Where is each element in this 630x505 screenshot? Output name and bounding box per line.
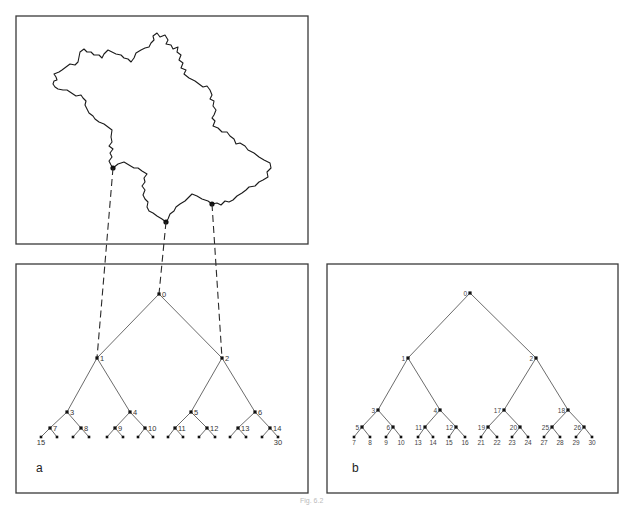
tree-node-label: 22: [493, 439, 501, 446]
panel-a-letter: a: [36, 461, 43, 475]
tree-node-label: 10: [397, 439, 405, 446]
tree-node-label: 10: [148, 424, 156, 433]
tree-node-label: 20: [510, 424, 518, 431]
tree-node: [79, 426, 82, 429]
tree-node: [152, 436, 155, 439]
tree-node-label: 30: [274, 438, 282, 447]
tree-node: [417, 436, 420, 439]
tree-node: [486, 425, 489, 428]
tree-node-label: 7: [53, 424, 57, 433]
tree-node-label: 7: [352, 439, 356, 446]
tree-node-label: 12: [446, 424, 454, 431]
fractal-panel-frame: [16, 16, 308, 244]
tree-node-label: 13: [414, 439, 422, 446]
tree-node-label: 25: [542, 424, 550, 431]
tree-node-label: 3: [70, 408, 74, 417]
tree-edge: [408, 358, 440, 410]
panel-b-letter: b: [352, 461, 359, 475]
tree-edge: [504, 358, 536, 410]
tree-node: [566, 408, 569, 411]
tree-node-label: 13: [241, 424, 249, 433]
tree-node-label: 11: [415, 424, 422, 431]
tree-node: [543, 436, 546, 439]
tree-node: [376, 408, 379, 411]
tree-node: [575, 436, 578, 439]
tree-node-label: 23: [508, 439, 516, 446]
tree-node: [205, 426, 208, 429]
tree-node-label: 14: [429, 439, 437, 446]
tree-node: [236, 426, 239, 429]
tree-node: [189, 410, 192, 413]
tree-edge: [536, 358, 568, 410]
tree-edge: [191, 358, 222, 412]
tree-node: [391, 425, 394, 428]
tree-panel-b: 0123417185611121920252678910131415162122…: [352, 290, 596, 447]
tree-node: [122, 436, 125, 439]
tree-node: [550, 425, 553, 428]
tree-node: [245, 436, 248, 439]
panel-b-frame: [327, 264, 618, 493]
tree-edge: [408, 293, 470, 358]
tree-node-label: 6: [258, 408, 262, 417]
tree-node: [48, 426, 51, 429]
tree-node-label: 15: [445, 439, 453, 446]
tree-edge: [222, 358, 255, 412]
tree-node: [167, 436, 170, 439]
tree-node-label: 30: [588, 439, 596, 446]
tree-node-label: 15: [37, 438, 45, 447]
tree-node-label: 28: [556, 439, 564, 446]
tree-node: [369, 436, 372, 439]
fractal-island-outline: [53, 33, 271, 222]
tree-node-label: 12: [210, 424, 218, 433]
figure-canvas: 012345678910111213141530 012341718561112…: [0, 0, 630, 505]
tree-node: [106, 436, 109, 439]
tree-node: [400, 436, 403, 439]
tree-node-label: 11: [178, 424, 186, 433]
tree-node-label: 2: [225, 354, 229, 363]
tree-node-label: 8: [368, 439, 372, 446]
tree-node-label: 2: [529, 355, 533, 362]
tree-node: [268, 426, 271, 429]
tree-node-label: 14: [273, 424, 281, 433]
tree-node: [128, 410, 131, 413]
tree-node: [591, 436, 594, 439]
tree-edge: [470, 293, 536, 358]
tree-node: [559, 436, 562, 439]
tree-node-label: 9: [384, 439, 388, 446]
dashed-correspondence-links: [97, 168, 222, 358]
tree-node: [518, 425, 521, 428]
tree-node: [173, 426, 176, 429]
dashed-link: [97, 168, 113, 358]
tree-node-label: 5: [355, 424, 359, 431]
tree-node-label: 27: [540, 439, 548, 446]
tree-node-label: 16: [461, 439, 469, 446]
tree-node: [72, 436, 75, 439]
tree-node-label: 19: [478, 424, 486, 431]
dashed-link: [159, 222, 166, 294]
tree-edge: [67, 358, 97, 412]
tree-node: [56, 436, 59, 439]
tree-node-label: 1: [401, 355, 405, 362]
tree-node: [229, 436, 232, 439]
dashed-link: [212, 204, 222, 358]
tree-node: [496, 436, 499, 439]
tree-node-label: 21: [477, 439, 485, 446]
tree-node-label: 0: [463, 290, 467, 297]
tree-node: [511, 436, 514, 439]
tree-node: [360, 425, 363, 428]
tree-node: [502, 408, 505, 411]
tree-node-label: 4: [133, 408, 137, 417]
tree-node: [582, 425, 585, 428]
tree-node: [113, 426, 116, 429]
tree-node: [406, 356, 409, 359]
tree-node-label: 4: [433, 407, 437, 414]
tree-node: [534, 356, 537, 359]
tree-node: [448, 436, 451, 439]
tree-node-label: 1: [100, 354, 104, 363]
tree-node: [468, 291, 471, 294]
tree-node-label: 17: [494, 407, 502, 414]
tree-node: [198, 436, 201, 439]
tree-node: [464, 436, 467, 439]
tree-node-label: 24: [524, 439, 532, 446]
tree-edge: [159, 294, 222, 358]
